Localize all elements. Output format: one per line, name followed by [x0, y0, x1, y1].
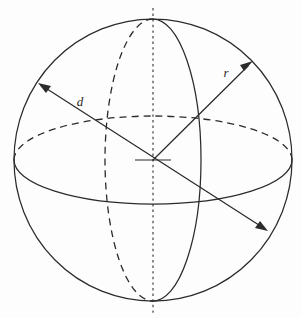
radius-arrowhead [240, 61, 253, 71]
diameter-arrowhead-lower-right [255, 221, 268, 231]
diameter-label: d [77, 94, 84, 109]
sphere-figure-canvas: d r [0, 0, 301, 318]
diameter-arrowhead-upper-left [38, 83, 51, 93]
sphere-diagram: d r [0, 0, 301, 318]
radius-label: r [223, 65, 229, 80]
